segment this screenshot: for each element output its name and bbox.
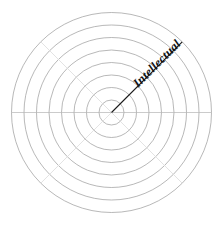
spoke-lower-left <box>41 113 112 184</box>
axis-label-intellectual: Intellectual <box>130 37 184 91</box>
radar-chart-svg: Intellectual <box>0 0 224 227</box>
spoke-lower-right <box>112 113 183 184</box>
spoke-upper-left <box>41 42 112 113</box>
polar-chart-container: Intellectual <box>0 0 224 227</box>
